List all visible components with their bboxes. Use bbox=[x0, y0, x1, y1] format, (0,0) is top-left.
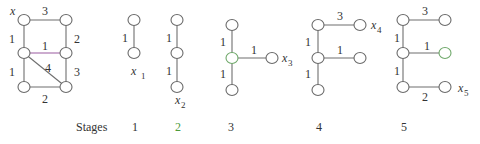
weight-label: 1 bbox=[305, 35, 311, 49]
weight-label: 1 bbox=[122, 31, 128, 45]
node-tl bbox=[18, 15, 30, 26]
node-br bbox=[60, 82, 72, 93]
tree-node bbox=[226, 85, 238, 96]
original-graph: x 3 1 2 1 4 1 3 2 bbox=[9, 4, 80, 106]
weight-label: 3 bbox=[74, 65, 80, 79]
weight-label: 1 bbox=[166, 31, 172, 45]
new-vertex-subscript: 4 bbox=[377, 25, 382, 35]
weight-label: 1 bbox=[220, 35, 226, 49]
stage-number-1: 1 bbox=[132, 120, 138, 134]
node-ml bbox=[18, 48, 30, 59]
new-vertex-subscript: 1 bbox=[141, 71, 146, 81]
weight-label: 1 bbox=[337, 43, 343, 57]
stage-4-tree: 3 1 1 1 x 4 bbox=[305, 9, 382, 96]
stage-number-5: 5 bbox=[401, 120, 407, 134]
weight-label: 3 bbox=[422, 4, 428, 18]
new-vertex-subscript: 5 bbox=[464, 88, 469, 98]
tree-node bbox=[397, 82, 409, 93]
new-vertex-subscript: 3 bbox=[288, 58, 293, 68]
weight-label: 2 bbox=[74, 32, 80, 46]
start-vertex-label: x bbox=[9, 4, 16, 18]
stages-row: Stages 1 2 3 4 5 bbox=[76, 120, 407, 134]
tree-node bbox=[397, 48, 409, 59]
tree-node bbox=[354, 53, 366, 64]
tree-node bbox=[128, 15, 140, 26]
weight-label: 1 bbox=[9, 65, 15, 79]
prim-mst-diagram: x 3 1 2 1 4 1 3 2 1 x 1 1 1 x 2 1 1 bbox=[0, 0, 480, 144]
tree-node bbox=[354, 20, 366, 31]
tree-node bbox=[312, 20, 324, 31]
tree-node bbox=[312, 53, 324, 64]
new-vertex-label: x bbox=[174, 93, 181, 107]
tree-node bbox=[266, 53, 278, 64]
node-tr bbox=[60, 15, 72, 26]
new-vertex-label: x bbox=[370, 18, 377, 32]
stage-number-3: 3 bbox=[228, 120, 234, 134]
weight-label: 2 bbox=[422, 90, 428, 104]
weight-label: 3 bbox=[337, 9, 343, 23]
stage-2-tree: 1 1 x 2 bbox=[166, 15, 186, 111]
weight-label: 1 bbox=[251, 43, 257, 57]
weight-label: 1 bbox=[166, 64, 172, 78]
tree-node-highlighted bbox=[226, 53, 238, 64]
stage-number-4: 4 bbox=[316, 120, 322, 134]
weight-label: 1 bbox=[9, 32, 15, 46]
new-vertex-label: x bbox=[457, 81, 464, 95]
weight-label: 1 bbox=[220, 67, 226, 81]
stage-1-tree: 1 x 1 bbox=[122, 15, 146, 82]
tree-node bbox=[397, 15, 409, 26]
new-vertex-label: x bbox=[281, 51, 288, 65]
tree-node bbox=[226, 20, 238, 31]
stage-3-tree: 1 1 1 x 3 bbox=[220, 20, 293, 96]
weight-label: 1 bbox=[424, 39, 430, 53]
tree-node bbox=[128, 48, 140, 59]
new-vertex-label: x bbox=[130, 64, 137, 78]
weight-label: 3 bbox=[42, 4, 48, 18]
stage-5-tree: 3 1 1 1 2 x 5 bbox=[394, 4, 469, 104]
tree-node bbox=[171, 15, 183, 26]
tree-node-highlighted bbox=[439, 48, 451, 59]
weight-label: 1 bbox=[394, 31, 400, 45]
new-vertex-subscript: 2 bbox=[181, 100, 186, 110]
tree-node bbox=[312, 85, 324, 96]
weight-label: 2 bbox=[42, 92, 48, 106]
weight-label: 1 bbox=[305, 67, 311, 81]
node-mr bbox=[60, 48, 72, 59]
tree-node bbox=[439, 15, 451, 26]
stage-number-2: 2 bbox=[175, 120, 181, 134]
weight-label: 4 bbox=[45, 61, 51, 75]
weight-label: 1 bbox=[394, 64, 400, 78]
tree-node bbox=[171, 48, 183, 59]
weight-label: 1 bbox=[42, 39, 48, 53]
stages-label: Stages bbox=[76, 120, 108, 134]
tree-node bbox=[439, 82, 451, 93]
tree-node bbox=[171, 82, 183, 93]
node-bl bbox=[18, 82, 30, 93]
